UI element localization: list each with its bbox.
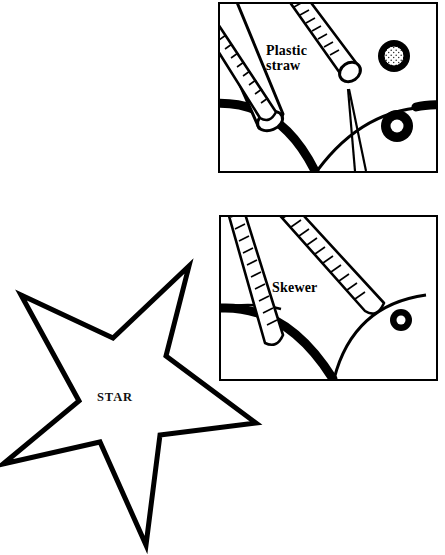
star-figure [0, 255, 270, 555]
star-label: STAR [97, 390, 133, 405]
star-artwork [0, 255, 270, 555]
balloon-arc-right-thick [416, 105, 436, 107]
panel-plastic-straw [218, 2, 438, 173]
caption-plastic-straw: Plastic straw [266, 44, 340, 73]
solid-ring [381, 110, 413, 142]
figure-canvas: Plastic straw [0, 0, 445, 555]
panel-plastic-straw-artwork [220, 4, 436, 171]
stippled-ring [378, 40, 410, 72]
solid-ring [390, 309, 412, 331]
star-outline [3, 266, 256, 545]
caption-skewer: Skewer [272, 281, 362, 296]
